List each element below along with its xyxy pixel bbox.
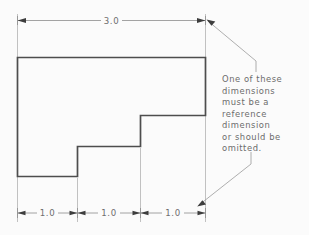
arrowhead-segment-middle-start xyxy=(78,211,86,215)
note-line-4: reference xyxy=(222,109,267,119)
arrowhead-lower-leader xyxy=(197,200,206,206)
arrowhead-overall-right xyxy=(197,18,206,23)
note-line-2: dimensions xyxy=(222,86,275,96)
arrowhead-segment-left-start xyxy=(18,211,26,215)
segment-dimension-left-label: 1.0 xyxy=(40,208,55,218)
arrowhead-segment-right-end xyxy=(198,211,206,215)
lower-leader-diagonal xyxy=(199,164,251,205)
segment-dimension-right-label: 1.0 xyxy=(165,208,180,218)
note-line-3: must be a xyxy=(222,97,269,107)
arrowhead-segment-right-start xyxy=(141,211,149,215)
upper-leader-line xyxy=(207,20,257,73)
arrowhead-upper-leader xyxy=(207,20,216,26)
note-line-7: omitted. xyxy=(222,143,262,153)
segment-dimension-middle-label: 1.0 xyxy=(101,208,116,218)
arrowhead-segment-middle-end xyxy=(133,211,141,215)
note-line-5: dimension xyxy=(222,120,270,130)
cad-drawing-svg: 3.0 One of these dimensions must be a re… xyxy=(0,0,309,235)
upper-leader-diagonal xyxy=(208,21,256,61)
segment-dimension-middle: 1.0 xyxy=(78,208,141,218)
arrowhead-overall-left xyxy=(18,18,27,23)
extension-lines xyxy=(18,14,206,222)
segment-dimension-right: 1.0 xyxy=(141,208,206,218)
arrowhead-segment-left-end xyxy=(70,211,78,215)
reference-dimension-note: One of these dimensions must be a refere… xyxy=(222,74,282,153)
overall-dimension-label: 3.0 xyxy=(104,16,119,26)
note-line-6: or should be xyxy=(222,132,281,142)
overall-width-dimension: 3.0 xyxy=(18,16,206,26)
part-outline-path xyxy=(18,58,206,177)
stepped-part-outline xyxy=(18,58,206,177)
bottom-dimension-chain: 1.0 1.0 1.0 xyxy=(18,208,206,218)
note-line-1: One of these xyxy=(222,74,282,84)
engineering-drawing-canvas: 3.0 One of these dimensions must be a re… xyxy=(0,0,309,235)
segment-dimension-left: 1.0 xyxy=(18,208,78,218)
